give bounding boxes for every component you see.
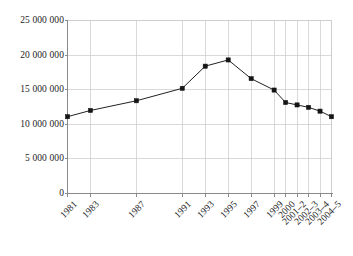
- x-axis-tick-labels: 1981198319871991199319951997199920002001…: [0, 0, 353, 256]
- chart-container: 05 000 00010 000 00015 000 00020 000 000…: [0, 0, 353, 256]
